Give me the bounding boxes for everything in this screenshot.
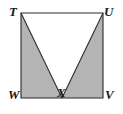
geometry-figure: T U W V X [0, 0, 123, 114]
vertex-label-U: U [104, 5, 113, 18]
vertex-label-X: X [57, 86, 66, 99]
vertex-label-V: V [105, 88, 114, 101]
vertex-label-T: T [9, 5, 17, 18]
vertex-label-W: W [8, 88, 20, 101]
